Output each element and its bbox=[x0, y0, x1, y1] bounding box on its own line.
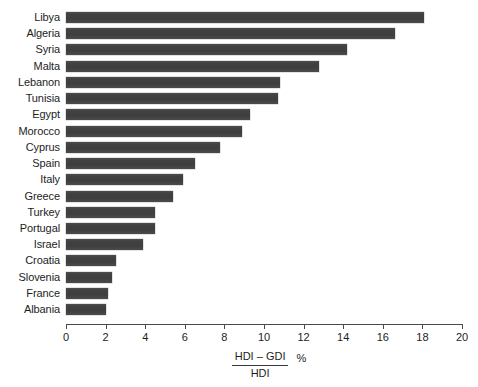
category-label: Croatia bbox=[0, 254, 60, 267]
category-label: Lebanon bbox=[0, 76, 60, 89]
category-label: Malta bbox=[0, 60, 60, 73]
bar bbox=[66, 304, 106, 315]
bar-row: Syria bbox=[0, 43, 478, 59]
bar-row: Turkey bbox=[0, 206, 478, 222]
x-tick bbox=[66, 324, 67, 329]
x-tick-label: 4 bbox=[130, 331, 160, 343]
bar bbox=[66, 207, 155, 218]
bar bbox=[66, 93, 278, 104]
category-label: Morocco bbox=[0, 125, 60, 138]
x-tick-label: 14 bbox=[328, 331, 358, 343]
bar-row: Malta bbox=[0, 60, 478, 76]
bar bbox=[66, 239, 143, 250]
bar bbox=[66, 223, 155, 234]
x-tick bbox=[462, 324, 463, 329]
x-axis-title: HDI – GDI HDI % bbox=[0, 350, 478, 381]
x-tick-label: 16 bbox=[368, 331, 398, 343]
bar-row: Algeria bbox=[0, 27, 478, 43]
x-tick bbox=[343, 324, 344, 329]
category-label: Egypt bbox=[0, 108, 60, 121]
bar-row: Spain bbox=[0, 157, 478, 173]
category-label: Albania bbox=[0, 303, 60, 316]
category-label: Greece bbox=[0, 190, 60, 203]
bar-row: Italy bbox=[0, 173, 478, 189]
bar bbox=[66, 272, 112, 283]
x-tick bbox=[145, 324, 146, 329]
bar bbox=[66, 77, 280, 88]
category-label: France bbox=[0, 287, 60, 300]
category-label: Slovenia bbox=[0, 271, 60, 284]
bar-row: Lebanon bbox=[0, 76, 478, 92]
x-axis-title-unit: % bbox=[296, 350, 306, 364]
plot-area: LibyaAlgeriaSyriaMaltaLebanonTunisiaEgyp… bbox=[0, 0, 478, 330]
bar bbox=[66, 126, 242, 137]
x-tick bbox=[185, 324, 186, 329]
x-tick bbox=[106, 324, 107, 329]
x-tick-label: 6 bbox=[170, 331, 200, 343]
category-label: Libya bbox=[0, 11, 60, 24]
category-label: Algeria bbox=[0, 27, 60, 40]
category-label: Italy bbox=[0, 173, 60, 186]
bar-row: Slovenia bbox=[0, 271, 478, 287]
x-tick-label: 8 bbox=[209, 331, 239, 343]
bar bbox=[66, 255, 116, 266]
bar bbox=[66, 158, 195, 169]
x-tick-label: 20 bbox=[447, 331, 477, 343]
bar-row: Portugal bbox=[0, 222, 478, 238]
bar bbox=[66, 191, 173, 202]
category-label: Israel bbox=[0, 238, 60, 251]
bar-row: France bbox=[0, 287, 478, 303]
x-tick-label: 18 bbox=[407, 331, 437, 343]
x-axis-title-denominator: HDI bbox=[248, 366, 273, 381]
x-axis-title-fraction: HDI – GDI HDI bbox=[232, 350, 289, 381]
bar-row: Egypt bbox=[0, 108, 478, 124]
category-label: Syria bbox=[0, 43, 60, 56]
bar bbox=[66, 28, 395, 39]
x-axis-title-numerator: HDI – GDI bbox=[232, 350, 289, 365]
bar-row: Tunisia bbox=[0, 92, 478, 108]
x-tick-label: 10 bbox=[249, 331, 279, 343]
bar bbox=[66, 109, 250, 120]
hdi-gdi-gap-bar-chart: LibyaAlgeriaSyriaMaltaLebanonTunisiaEgyp… bbox=[0, 0, 478, 387]
x-tick bbox=[422, 324, 423, 329]
bar bbox=[66, 142, 220, 153]
bar bbox=[66, 61, 319, 72]
x-tick bbox=[304, 324, 305, 329]
bar bbox=[66, 174, 183, 185]
category-label: Tunisia bbox=[0, 92, 60, 105]
bar-row: Morocco bbox=[0, 125, 478, 141]
category-label: Turkey bbox=[0, 206, 60, 219]
x-tick-label: 0 bbox=[51, 331, 81, 343]
bar bbox=[66, 44, 347, 55]
x-tick-label: 2 bbox=[91, 331, 121, 343]
bar bbox=[66, 288, 108, 299]
x-tick bbox=[383, 324, 384, 329]
bar-row: Libya bbox=[0, 11, 478, 27]
bar-row: Greece bbox=[0, 190, 478, 206]
x-tick bbox=[264, 324, 265, 329]
x-tick-label: 12 bbox=[289, 331, 319, 343]
bar-row: Croatia bbox=[0, 254, 478, 270]
bar-row: Albania bbox=[0, 303, 478, 319]
x-axis: 02468101214161820 HDI – GDI HDI % bbox=[0, 324, 478, 387]
bar-row: Israel bbox=[0, 238, 478, 254]
category-label: Portugal bbox=[0, 222, 60, 235]
bar-row: Cyprus bbox=[0, 141, 478, 157]
x-tick bbox=[224, 324, 225, 329]
category-label: Spain bbox=[0, 157, 60, 170]
category-label: Cyprus bbox=[0, 141, 60, 154]
bar bbox=[66, 12, 424, 23]
